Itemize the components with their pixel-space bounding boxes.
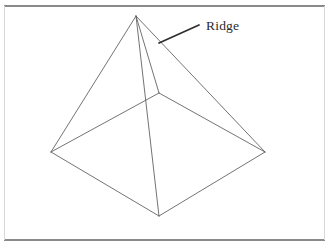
edge-base-back-to-right bbox=[159, 93, 265, 152]
figure-container: Ridge bbox=[0, 0, 328, 249]
pyramid-diagram-canvas: Ridge bbox=[0, 0, 328, 249]
pyramid-wireframe bbox=[51, 16, 265, 216]
ridge-leader-line bbox=[159, 25, 199, 43]
ridge-callout: Ridge bbox=[159, 18, 239, 43]
edge-apex-to-base-right bbox=[136, 16, 265, 152]
edge-apex-to-base-left bbox=[51, 16, 136, 152]
edge-ridge bbox=[136, 16, 159, 216]
ground-plane-stipple bbox=[40, 80, 305, 235]
edge-base-left-to-back bbox=[51, 93, 159, 152]
ridge-label: Ridge bbox=[206, 18, 239, 33]
edge-base-left-to-front bbox=[51, 152, 159, 216]
edge-base-front-to-right bbox=[159, 152, 265, 216]
